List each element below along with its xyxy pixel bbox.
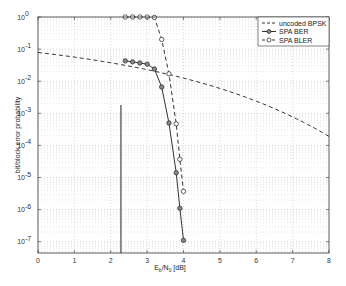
data-point-marker	[178, 206, 182, 210]
data-point-marker	[152, 67, 156, 71]
data-point-marker	[174, 171, 178, 175]
data-point-marker	[123, 59, 127, 63]
data-point-marker	[167, 72, 171, 76]
y-tick-label: 10	[17, 46, 25, 53]
svg-text:uncoded BPSK: uncoded BPSK	[279, 20, 327, 27]
data-point-marker	[181, 189, 185, 193]
x-tick-label: 3	[145, 257, 149, 264]
y-axis-label: bit/block error probability	[14, 96, 22, 173]
x-axis-label: Eb/N0 [dB]	[154, 264, 186, 273]
data-point-marker	[181, 238, 185, 242]
y-tick-exponent: -1	[25, 42, 31, 49]
x-tick-label: 0	[36, 257, 40, 264]
data-point-marker	[178, 157, 182, 161]
y-tick-exponent: -4	[25, 138, 31, 145]
y-tick-label: 10	[17, 78, 25, 85]
svg-text:SPA BLER: SPA BLER	[279, 37, 312, 44]
data-point-marker	[174, 122, 178, 126]
x-tick-label: 2	[109, 257, 113, 264]
grid	[38, 17, 329, 253]
y-tick-exponent: -3	[25, 106, 31, 113]
y-tick-exponent: -2	[25, 74, 31, 81]
y-tick-exponent: 0	[25, 10, 29, 17]
y-tick-exponent: -5	[25, 171, 31, 178]
x-tick-label: 6	[254, 257, 258, 264]
filled-circle-marker-icon	[267, 30, 271, 34]
data-point-marker	[138, 61, 142, 65]
data-point-marker	[130, 60, 134, 64]
x-tick-label: 5	[218, 257, 222, 264]
data-point-marker	[167, 121, 171, 125]
legend: uncoded BPSK SPA BER SPA BLER	[258, 17, 329, 46]
data-point-marker	[159, 85, 163, 89]
x-tick-label: 7	[291, 257, 295, 264]
y-tick-label: 10	[17, 206, 25, 213]
y-tick-label: 10	[17, 238, 25, 245]
data-point-marker	[159, 37, 163, 41]
x-tick-label: 4	[182, 257, 186, 264]
y-tick-exponent: -6	[25, 203, 31, 210]
x-tick-label: 8	[327, 257, 331, 264]
error-probability-chart: 01234567810010-110-210-310-410-510-610-7…	[0, 0, 346, 286]
open-circle-marker-icon	[267, 38, 271, 42]
x-tick-label: 1	[72, 257, 76, 264]
data-point-marker	[152, 15, 156, 19]
y-tick-exponent: -7	[25, 235, 31, 242]
y-tick-label: 10	[17, 14, 25, 21]
svg-text:SPA BER: SPA BER	[279, 28, 308, 35]
data-point-marker	[145, 62, 149, 66]
y-tick-label: 10	[17, 174, 25, 181]
axis-ticks: 01234567810010-110-210-310-410-510-610-7	[17, 10, 331, 264]
